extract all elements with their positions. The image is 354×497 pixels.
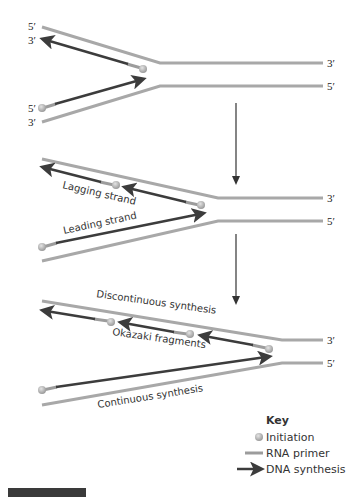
rna-primer xyxy=(100,182,114,185)
initiation-dot-icon xyxy=(112,181,120,189)
label-3-prime: 3′ xyxy=(327,334,335,346)
panel-1-initial-fork: 5′ 3′ 5′ 3′ 3′ 5′ xyxy=(28,20,335,128)
legend-key: Key Initiation RNA primer DNA synthesis xyxy=(237,414,346,476)
dna-synthesis-arrow xyxy=(46,311,95,319)
leading-strand-label: Leading strand xyxy=(62,210,137,236)
dna-synthesis-arrow xyxy=(55,80,140,104)
label-5-prime: 5′ xyxy=(327,215,335,227)
rna-primer xyxy=(173,332,187,334)
template-strand-top xyxy=(42,27,323,63)
template-strand-bottom xyxy=(42,86,323,122)
initiation-dot-icon xyxy=(255,433,263,441)
label-3-prime: 3′ xyxy=(28,116,36,128)
dna-replication-diagram: 5′ 3′ 5′ 3′ 3′ 5′ Lagging strand Leading… xyxy=(0,0,354,497)
panel-3-continuous-discontinuous: Discontinuous synthesis Okazaki fragment… xyxy=(38,288,335,410)
key-title: Key xyxy=(266,414,289,427)
key-item-initiation: Initiation xyxy=(266,431,314,444)
initiation-dot-icon xyxy=(265,345,273,353)
rna-primer xyxy=(185,202,199,205)
key-item-rna-primer: RNA primer xyxy=(266,447,330,460)
label-5-prime: 5′ xyxy=(28,20,36,32)
label-5-prime: 5′ xyxy=(28,102,36,114)
initiation-dot-icon xyxy=(38,243,46,251)
initiation-dot-icon xyxy=(107,318,115,326)
step-arrow-down-icon xyxy=(232,234,240,305)
dna-synthesis-arrow xyxy=(46,40,128,64)
dna-synthesis-arrow xyxy=(204,336,253,345)
lagging-strand-label: Lagging strand xyxy=(62,179,138,207)
label-5-prime: 5′ xyxy=(327,80,335,92)
label-5-prime: 5′ xyxy=(327,357,335,369)
key-item-dna-synthesis: DNA synthesis xyxy=(266,463,346,476)
rna-primer xyxy=(252,345,266,348)
label-3-prime: 3′ xyxy=(28,34,36,46)
rna-primer xyxy=(127,64,141,68)
initiation-dot-icon xyxy=(197,201,205,209)
initiation-dot-icon xyxy=(38,104,46,112)
label-3-prime: 3′ xyxy=(327,192,335,204)
panel-2-leading-lagging: Lagging strand Leading strand 3′ 5′ xyxy=(38,159,335,261)
label-3-prime: 3′ xyxy=(327,57,335,69)
rna-primer xyxy=(94,319,108,321)
initiation-dot-icon xyxy=(38,386,46,394)
initiation-dot-icon xyxy=(139,65,147,73)
footer-bar xyxy=(8,488,86,497)
step-arrow-down-icon xyxy=(232,103,240,185)
